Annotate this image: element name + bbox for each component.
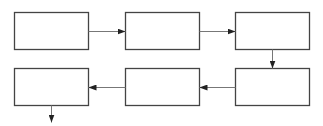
box-rect xyxy=(236,69,310,106)
flowchart-box-3 xyxy=(236,13,310,50)
box-rect xyxy=(126,13,200,50)
box-rect xyxy=(126,69,200,106)
boxes-layer xyxy=(15,13,310,106)
flowchart-box-1 xyxy=(15,13,89,50)
flowchart-box-6 xyxy=(15,69,89,106)
flowchart-box-4 xyxy=(236,69,310,106)
box-rect xyxy=(236,13,310,50)
flowchart-diagram xyxy=(0,0,323,126)
flowchart-box-5 xyxy=(126,69,200,106)
box-rect xyxy=(15,69,89,106)
flowchart-box-2 xyxy=(126,13,200,50)
box-rect xyxy=(15,13,89,50)
